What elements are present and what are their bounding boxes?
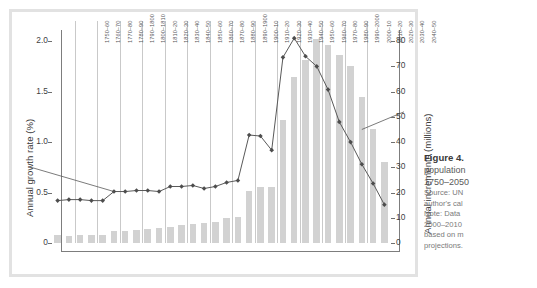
data-point-marker [179, 184, 184, 189]
data-point-marker [168, 184, 173, 189]
x-axis-label: 1900–10 [273, 21, 279, 43]
y-axis-right-tick-mark [391, 167, 395, 168]
data-point-marker [134, 188, 139, 193]
caption-note-3: 2000–2010 [424, 220, 537, 231]
x-axis-label: 1880–90 [250, 21, 256, 43]
x-axis-label: 2040–50 [431, 21, 437, 43]
y-axis-right-tick-mark [391, 41, 395, 42]
x-axis-label: 1860–70 [228, 21, 234, 43]
y-axis-left-tick-label: 2.0 [36, 35, 48, 45]
caption-note-4: based on m [424, 230, 537, 241]
x-axis-label: 1870–80 [239, 21, 245, 43]
y-axis-left-tick-label: 1.0 [36, 136, 48, 146]
x-axis-label: 1940–50 [318, 21, 324, 43]
data-point-marker [89, 198, 94, 203]
x-axis-label: 1990–2000 [374, 14, 380, 43]
growth-rate-line [58, 38, 385, 205]
y-axis-right-tick-mark [391, 218, 395, 219]
data-point-marker [236, 178, 241, 183]
data-point-marker [348, 140, 353, 145]
data-point-marker [213, 184, 218, 189]
y-axis-right-tick-label: 40 [396, 136, 405, 146]
y-axis-right-tick-mark [391, 142, 395, 143]
data-point-marker [157, 189, 162, 194]
x-axis-label: 1890–1900 [262, 14, 268, 43]
x-axis-label: 1790–1800 [149, 14, 155, 43]
x-axis-label: 2030–40 [419, 21, 425, 43]
x-axis-label: 1830–40 [194, 21, 200, 43]
x-axis-label: 1930–40 [307, 21, 313, 43]
y-axis-right-tick-label: 10 [396, 212, 405, 222]
x-axis-label: 1760–70 [115, 21, 121, 43]
y-axis-left-tick-mark [48, 142, 52, 143]
y-axis-right-tick-label: 60 [396, 86, 405, 96]
data-point-marker [247, 133, 252, 138]
data-point-marker [123, 189, 128, 194]
data-point-marker [224, 180, 229, 185]
data-point-marker [78, 197, 83, 202]
x-axis-label: 1950–60 [329, 21, 335, 43]
y-axis-left-tick-label: 1.5 [36, 86, 48, 96]
y-axis-left-tick-mark [48, 92, 52, 93]
data-point-marker [360, 162, 365, 167]
y-axis-right-tick-label: 80 [396, 35, 405, 45]
x-axis-label: 2020–30 [408, 21, 414, 43]
data-point-marker [326, 87, 331, 92]
x-axis-label: 1960–70 [341, 21, 347, 43]
x-axis-label: 1920–30 [296, 21, 302, 43]
data-point-marker [191, 183, 196, 188]
y-axis-right-tick-label: 70 [396, 60, 405, 70]
data-point-marker [202, 186, 207, 191]
y-axis-left-tick-mark [48, 193, 52, 194]
caption-title: Figure 4. [424, 152, 537, 164]
data-point-marker [281, 55, 286, 60]
data-point-marker [337, 120, 342, 125]
caption-line-0: population [424, 164, 537, 176]
y-axis-left-tick-mark [48, 41, 52, 42]
y-axis-right-tick-label: 50 [396, 111, 405, 121]
y-axis-left-title: Annual growth rate (%) [24, 119, 35, 217]
x-axis-label: 1810–20 [172, 21, 178, 43]
x-axis-label: 1980–90 [363, 21, 369, 43]
figure-container: 1750–601760–701770–801780–901790–1800180… [0, 0, 537, 288]
x-axis-label: 1820–30 [183, 21, 189, 43]
y-axis-right-tick-mark [391, 66, 395, 67]
x-axis-label: 1780–90 [138, 21, 144, 43]
caption-note-0: Source: UN [424, 188, 537, 199]
data-point-marker [67, 197, 72, 202]
y-axis-right-tick-label: 30 [396, 161, 405, 171]
x-axis-label: 1850–60 [217, 21, 223, 43]
data-point-marker [371, 181, 376, 186]
y-axis-left-tick-label: 0 [43, 237, 48, 247]
x-axis-label: 1910–20 [284, 21, 290, 43]
y-axis-right-tick-mark [391, 193, 395, 194]
data-point-marker [382, 202, 387, 207]
y-axis-right-tick-mark [391, 243, 395, 244]
x-axis-label: 1840–50 [205, 21, 211, 43]
data-point-marker [145, 188, 150, 193]
x-axis-label: 2000–10 [386, 21, 392, 43]
y-axis-right-tick-mark [391, 92, 395, 93]
y-axis-right-tick-label: 0 [396, 237, 401, 247]
line-series [12, 12, 421, 280]
x-axis-label: 1770–80 [127, 21, 133, 43]
x-axis-label: 1970–80 [352, 21, 358, 43]
figure-caption: Figure 4. population 1750–2050 Source: U… [424, 152, 537, 251]
caption-line-1: 1750–2050 [424, 176, 537, 188]
y-axis-left-tick-mark [48, 243, 52, 244]
chart-frame: 1750–601760–701770–801780–901790–1800180… [9, 9, 418, 277]
y-axis-left-tick-label: 0.5 [36, 187, 48, 197]
caption-note-5: projections. [424, 241, 537, 252]
x-axis-label: 1800–1810 [160, 14, 166, 43]
caption-note-1: author's cal [424, 199, 537, 210]
caption-note-2: Note: Data [424, 209, 537, 220]
x-axis-label: 1750–60 [104, 21, 110, 43]
data-point-marker [55, 198, 60, 203]
y-axis-right-tick-mark [391, 117, 395, 118]
y-axis-right-tick-label: 20 [396, 187, 405, 197]
